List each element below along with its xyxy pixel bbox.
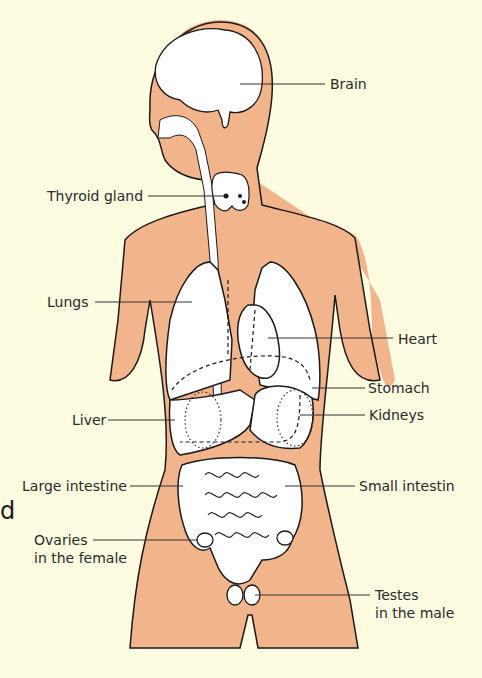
left-ovary (197, 533, 213, 547)
label-ovaries-line2: in the female (34, 549, 127, 567)
label-small-intestine: Small intestin (359, 477, 455, 495)
label-kidneys: Kidneys (369, 406, 424, 424)
label-large-intestine: Large intestine (22, 477, 127, 495)
label-stomach: Stomach (368, 379, 430, 397)
thyroid-organ (212, 172, 249, 211)
label-ovaries-line1: Ovaries (34, 531, 127, 549)
label-lungs: Lungs (47, 293, 88, 311)
label-testes-line2: in the male (375, 604, 454, 622)
label-heart: Heart (398, 330, 437, 348)
label-liver: Liver (72, 411, 106, 429)
left-testis (227, 585, 243, 605)
label-brain: Brain (330, 75, 367, 93)
label-thyroid-gland: Thyroid gland (47, 187, 143, 205)
label-ovaries: Ovaries in the female (34, 531, 127, 567)
label-testes: Testes in the male (375, 586, 454, 622)
label-testes-line1: Testes (375, 586, 454, 604)
right-ovary (277, 531, 293, 545)
cropped-text-fragment: d (0, 497, 15, 525)
stomach-organ (250, 386, 313, 448)
